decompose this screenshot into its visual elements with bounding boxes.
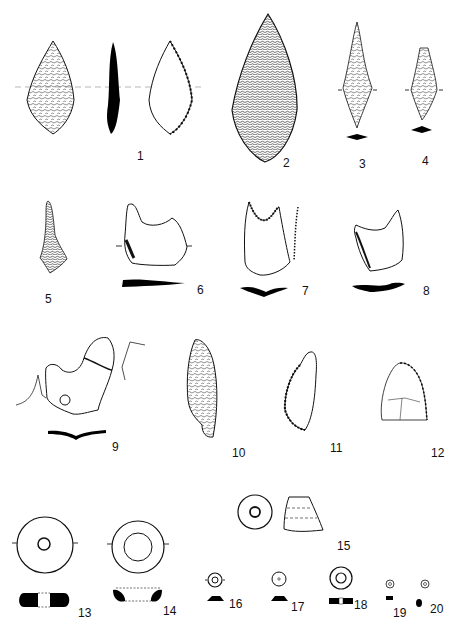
- figure-15: [238, 495, 323, 531]
- figure-2: [232, 14, 297, 162]
- figure-18: [329, 567, 353, 604]
- figure-label-4: 4: [422, 155, 429, 167]
- figure-label-13: 13: [78, 607, 91, 619]
- figure-label-7: 7: [302, 285, 309, 297]
- figure-label-5: 5: [45, 293, 52, 305]
- figure-16: [205, 573, 225, 601]
- figure-label-11: 11: [330, 442, 342, 454]
- figure-19: [386, 580, 394, 600]
- figure-17: [271, 572, 288, 601]
- figure-label-1: 1: [137, 150, 144, 162]
- figure-label-17: 17: [291, 601, 304, 613]
- figure-5: [40, 201, 67, 273]
- figure-label-16: 16: [229, 598, 242, 610]
- figure-label-8: 8: [423, 285, 430, 297]
- figure-label-19: 19: [393, 607, 406, 619]
- figure-20: [416, 580, 429, 607]
- figure-label-3: 3: [359, 158, 366, 170]
- figure-label-15: 15: [337, 540, 350, 552]
- artifact-plate: 1 2 3 4 5 6 7 8 9 10 11 12 13 14 15 16 1…: [0, 0, 460, 622]
- figure-1: [15, 41, 205, 134]
- plate-drawings: [0, 0, 460, 622]
- figure-8: [352, 210, 405, 292]
- figure-6: [116, 204, 192, 287]
- figure-11: [285, 352, 317, 430]
- figure-14: [107, 521, 169, 602]
- figure-10: [187, 340, 217, 437]
- figure-13: [12, 517, 78, 607]
- figure-label-14: 14: [163, 605, 176, 617]
- figure-9: [16, 338, 145, 440]
- figure-label-12: 12: [431, 447, 444, 459]
- figure-3: [338, 22, 377, 140]
- figure-7: [240, 202, 298, 297]
- figure-12: [381, 363, 427, 420]
- figure-label-10: 10: [232, 447, 245, 459]
- figure-label-2: 2: [283, 157, 290, 169]
- figure-label-18: 18: [354, 599, 367, 611]
- figure-label-9: 9: [112, 441, 119, 453]
- figure-4: [405, 48, 443, 133]
- figure-label-20: 20: [430, 603, 443, 615]
- figure-label-6: 6: [197, 284, 204, 296]
